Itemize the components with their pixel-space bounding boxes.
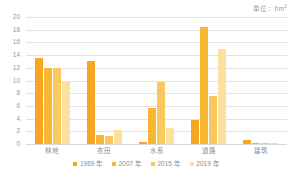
bar[interactable] bbox=[44, 68, 52, 144]
gridline bbox=[26, 144, 287, 145]
legend-label: 2019 年 bbox=[196, 161, 219, 168]
bar[interactable] bbox=[96, 135, 104, 144]
bar[interactable] bbox=[200, 27, 208, 144]
y-axis-tick-label: 10 bbox=[4, 77, 20, 84]
x-axis-label: 水系 bbox=[130, 147, 182, 154]
bar[interactable] bbox=[209, 96, 217, 144]
bar[interactable] bbox=[139, 142, 147, 144]
bar[interactable] bbox=[157, 82, 165, 144]
y-axis-tick-label: 20 bbox=[4, 14, 20, 21]
x-axis-label: 建筑 bbox=[235, 147, 287, 154]
bar[interactable] bbox=[243, 140, 251, 144]
y-axis-tick-label: 0 bbox=[4, 141, 20, 148]
y-axis-tick-label: 4 bbox=[4, 115, 20, 122]
bar-group bbox=[78, 17, 130, 144]
bar-chart: 单位：hm2 02468101214161820 林地农田水系道路建筑 1969… bbox=[0, 0, 293, 177]
bar-group bbox=[26, 17, 78, 144]
legend-item[interactable]: 2015 年 bbox=[151, 161, 181, 168]
bar[interactable] bbox=[252, 143, 260, 144]
legend-swatch-icon bbox=[190, 162, 194, 166]
legend-swatch-icon bbox=[151, 162, 155, 166]
legend-label: 2015 年 bbox=[158, 161, 181, 168]
y-axis-tick-label: 18 bbox=[4, 26, 20, 33]
bar-groups bbox=[26, 17, 287, 144]
bar-group bbox=[183, 17, 235, 144]
legend-item[interactable]: 2007 年 bbox=[112, 161, 142, 168]
x-axis-label: 林地 bbox=[26, 147, 78, 154]
y-axis-tick-label: 8 bbox=[4, 90, 20, 97]
y-axis-tick-label: 12 bbox=[4, 65, 20, 72]
bar[interactable] bbox=[35, 58, 43, 144]
legend-swatch-icon bbox=[73, 162, 77, 166]
bar[interactable] bbox=[191, 120, 199, 144]
bar[interactable] bbox=[62, 81, 70, 145]
bar[interactable] bbox=[105, 136, 113, 144]
legend-label: 1969 年 bbox=[80, 161, 103, 168]
bar[interactable] bbox=[114, 130, 122, 144]
legend-item[interactable]: 2019 年 bbox=[190, 161, 220, 168]
bar[interactable] bbox=[261, 143, 269, 144]
x-axis-label: 道路 bbox=[183, 147, 235, 154]
bar[interactable] bbox=[270, 143, 278, 144]
bar[interactable] bbox=[87, 61, 95, 144]
y-axis-tick-label: 14 bbox=[4, 52, 20, 59]
unit-superscript: 2 bbox=[284, 4, 287, 9]
bar-group bbox=[130, 17, 182, 144]
legend-item[interactable]: 1969 年 bbox=[73, 161, 103, 168]
bar-group bbox=[235, 17, 287, 144]
bar[interactable] bbox=[166, 128, 174, 144]
y-axis-tick-label: 6 bbox=[4, 103, 20, 110]
bar[interactable] bbox=[53, 68, 61, 144]
legend-swatch-icon bbox=[112, 162, 116, 166]
plot-area bbox=[26, 17, 287, 144]
legend-label: 2007 年 bbox=[119, 161, 142, 168]
x-axis-labels: 林地农田水系道路建筑 bbox=[26, 147, 287, 154]
bar[interactable] bbox=[148, 108, 156, 144]
x-axis-label: 农田 bbox=[78, 147, 130, 154]
bar[interactable] bbox=[218, 49, 226, 144]
unit-caption-text: 单位：hm bbox=[253, 5, 284, 12]
legend: 1969 年2007 年2015 年2019 年 bbox=[0, 161, 293, 168]
unit-caption: 单位：hm2 bbox=[253, 3, 287, 13]
y-axis-tick-label: 2 bbox=[4, 128, 20, 135]
y-axis-tick-label: 16 bbox=[4, 39, 20, 46]
